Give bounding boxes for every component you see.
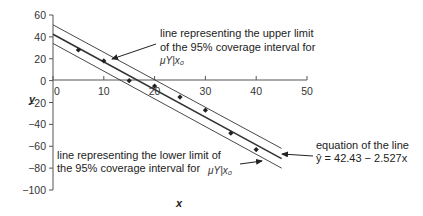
lower-annot-line1: line representing the lower limit of [57,149,222,161]
x-tick-label: 0 [54,85,60,97]
upper-annot-line2: of the 95% coverage interval for [160,41,316,53]
x-axis: 01020304050 [53,76,313,97]
upper-limit-annotation: line representing the upper limit of the… [112,27,316,66]
data-point [254,147,259,152]
equation-formula: ŷ = 42.43 − 2.527x [316,152,408,164]
x-tick-label: 50 [301,85,313,97]
y-tick-label: −40 [28,118,46,130]
equation-label: equation of the line [316,139,409,151]
lower-annot-subscript: μY|x₀ [207,165,232,176]
lower-annot-line2: the 95% coverage interval for [57,162,200,174]
data-point [127,78,132,83]
y-axis-title: y [28,93,36,105]
upper-annot-line1: line representing the upper limit [160,27,313,39]
lower-annot-arrow [240,161,262,164]
equation-annotation: equation of the line ŷ = 42.43 − 2.527x [282,139,409,164]
x-axis-title: x [175,197,183,209]
y-axis: 6040200−20−40−60−80−100 [22,9,53,196]
upper-annot-subscript: μY|x₀ [159,55,184,66]
y-tick-label: 20 [34,53,46,65]
equation-arrow [282,154,313,156]
x-tick-label: 40 [250,85,262,97]
x-tick-label: 10 [98,85,110,97]
y-tick-label: −80 [28,162,46,174]
y-tick-label: 40 [34,31,46,43]
y-tick-label: 0 [40,75,46,87]
upper-annot-arrow [112,44,156,59]
lower-limit-annotation: line representing the lower limit of the… [57,149,262,176]
regression-chart: 6040200−20−40−60−80−100 01020304050 y x … [0,0,423,216]
y-tick-label: −60 [28,140,46,152]
x-tick-label: 30 [200,85,212,97]
y-tick-label: 60 [34,9,46,21]
data-point [177,94,182,99]
y-tick-label: −100 [22,184,46,196]
